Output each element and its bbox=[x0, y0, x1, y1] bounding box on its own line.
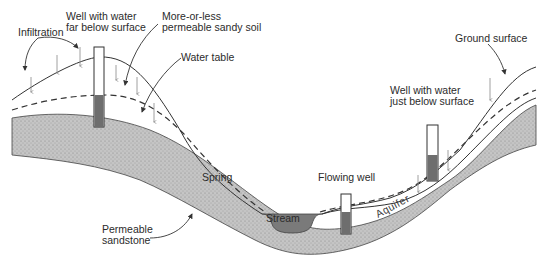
infiltration-leader-2 bbox=[38, 37, 78, 48]
ground-surface-leader bbox=[488, 44, 505, 74]
label-infiltration: Infiltration bbox=[18, 26, 64, 38]
label-sandy-soil-2: permeable sandy soil bbox=[162, 21, 261, 33]
label-well-near-2: just below surface bbox=[389, 95, 474, 107]
label-ground-surface: Ground surface bbox=[455, 32, 528, 44]
label-sandstone-2: sandstone bbox=[102, 234, 151, 246]
flowing-well bbox=[341, 194, 351, 234]
infiltration-leader bbox=[25, 38, 38, 70]
well-far-below-surface bbox=[94, 47, 104, 127]
well-just-below-surface bbox=[427, 125, 438, 181]
sandstone-leader bbox=[150, 214, 192, 238]
label-water-table: Water table bbox=[181, 51, 234, 63]
label-spring: Spring bbox=[202, 171, 233, 183]
label-stream: Stream bbox=[266, 212, 300, 224]
label-well-far-2: far below surface bbox=[66, 21, 146, 33]
label-flowing-well: Flowing well bbox=[318, 171, 375, 183]
sandstone-aquifer-layer bbox=[12, 105, 536, 254]
artesian-aquifer-diagram: Infiltration Well with water far below s… bbox=[0, 0, 548, 271]
water-table-leader bbox=[142, 58, 181, 112]
